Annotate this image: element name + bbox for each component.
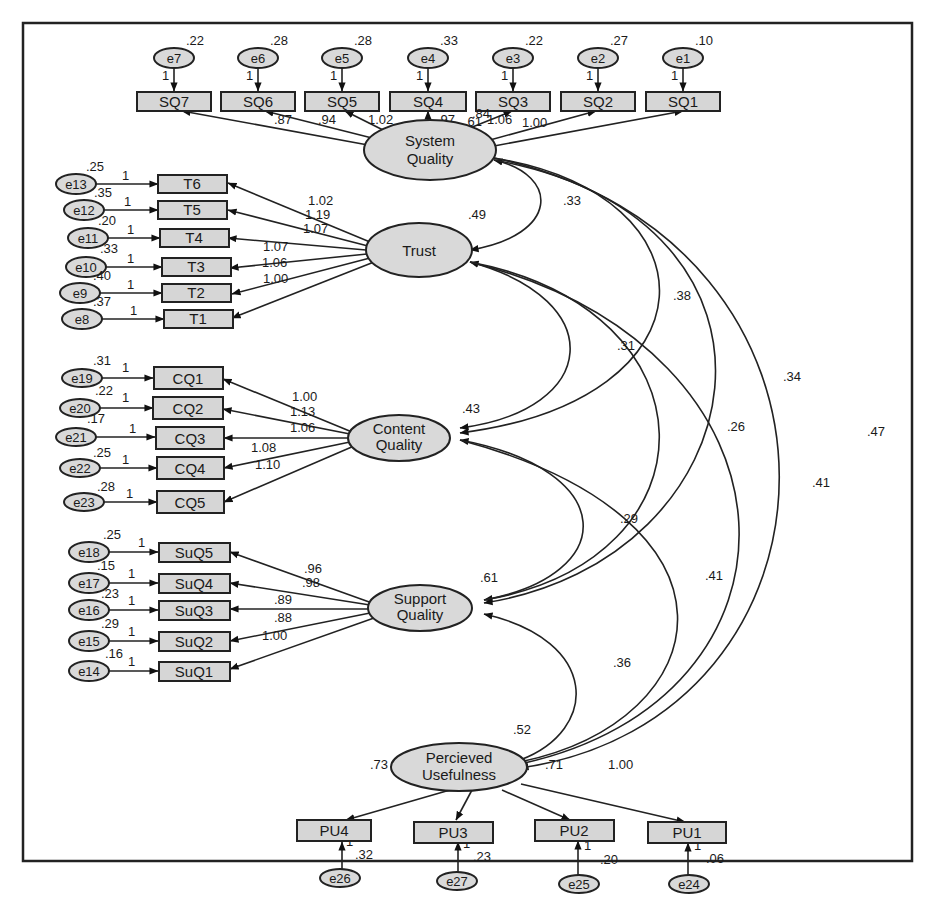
fixed-e9: 1 xyxy=(127,277,134,292)
latent-label-support-quality-line2: Quality xyxy=(397,606,444,623)
loading-label-pu1: 1.00 xyxy=(608,757,633,772)
error-var-e26: .32 xyxy=(355,847,373,862)
error-label-e14: e14 xyxy=(78,664,100,679)
indicator-label-sq3: SQ3 xyxy=(498,93,528,110)
indicator-label-cq1: CQ1 xyxy=(173,370,204,387)
error-var-e18: .25 xyxy=(103,527,121,542)
fixed-e13: 1 xyxy=(122,168,129,183)
latent-label-system-quality-line2: Quality xyxy=(407,150,454,167)
error-label-e2: e2 xyxy=(591,51,605,66)
error-var-e27: .23 xyxy=(473,849,491,864)
loading-label-sq2: 1.06 xyxy=(487,112,512,127)
loading-label-suq4: .98 xyxy=(302,575,320,590)
fixed-e22: 1 xyxy=(122,452,129,467)
indicator-label-pu4: PU4 xyxy=(319,822,348,839)
error-var-e20: .22 xyxy=(95,383,113,398)
loading-pu2 xyxy=(502,790,570,820)
indicator-label-sq7: SQ7 xyxy=(159,93,189,110)
error-var-e17: .15 xyxy=(97,558,115,573)
loading-label-t3: 1.07 xyxy=(263,239,288,254)
loading-t6 xyxy=(228,183,370,242)
fixed-e12: 1 xyxy=(124,194,131,209)
loading-suq5 xyxy=(230,552,372,603)
indicator-label-t6: T6 xyxy=(183,175,201,192)
loading-t3 xyxy=(230,254,367,268)
cov-trust-pu xyxy=(470,262,739,764)
error-label-e23: e23 xyxy=(73,495,95,510)
error-var-e3: .22 xyxy=(525,33,543,48)
indicator-label-suq5: SuQ5 xyxy=(175,544,213,561)
loading-label-sq1: 1.00 xyxy=(522,115,547,130)
loading-label-cq4: 1.08 xyxy=(251,440,276,455)
indicator-label-sq4: SQ4 xyxy=(413,93,443,110)
cov-label-sq-cq: .38 xyxy=(673,288,691,303)
loading-label-t2: 1.06 xyxy=(262,255,287,270)
error-var-e12: .35 xyxy=(94,185,112,200)
fixed-e17: 1 xyxy=(128,566,135,581)
cov-trust-suq xyxy=(470,262,659,600)
indicator-label-sq1: SQ1 xyxy=(668,93,698,110)
loading-suq1 xyxy=(230,618,374,669)
content-quality-indicators: e19 e20 e21 e22 e23 .31 .22 .17 .25 .28 … xyxy=(56,353,354,513)
cov-sq-cq xyxy=(460,158,659,433)
error-var-e6: .28 xyxy=(270,33,288,48)
error-label-e25: e25 xyxy=(568,877,590,892)
latent-variance-content-quality: .43 xyxy=(462,401,480,416)
error-label-e27: e27 xyxy=(446,874,468,889)
error-label-e21: e21 xyxy=(65,430,87,445)
covariance-paths xyxy=(460,158,779,768)
error-var-e13: .25 xyxy=(86,159,104,174)
fixed-e15: 1 xyxy=(128,624,135,639)
loading-t1 xyxy=(232,262,374,318)
loading-label-pu2: .71 xyxy=(545,757,563,772)
error-var-e2: .27 xyxy=(610,33,628,48)
error-label-e24: e24 xyxy=(678,877,700,892)
error-label-e9: e9 xyxy=(73,286,87,301)
error-var-e24: .06 xyxy=(706,851,724,866)
indicator-label-sq2: SQ2 xyxy=(583,93,613,110)
loading-label-pu4: .73 xyxy=(370,757,388,772)
loading-label-sq6: .87 xyxy=(274,112,292,127)
latent-variance-support-quality: .61 xyxy=(480,570,498,585)
fixed-e6: 1 xyxy=(246,68,253,83)
indicator-label-t3: T3 xyxy=(187,258,205,275)
error-label-e17: e17 xyxy=(78,576,100,591)
indicator-label-t1: T1 xyxy=(189,310,207,327)
error-label-e4: e4 xyxy=(421,51,435,66)
indicator-label-cq4: CQ4 xyxy=(175,460,206,477)
latent-label-content-quality-line2: Quality xyxy=(376,436,423,453)
support-quality-indicators: e18 e17 e16 e15 e14 .25 .15 .23 .29 .16 … xyxy=(69,527,374,681)
error-label-e19: e19 xyxy=(71,371,93,386)
loading-label-suq1: 1.00 xyxy=(262,628,287,643)
fixed-e21: 1 xyxy=(129,421,136,436)
loading-cq2 xyxy=(223,409,350,434)
error-label-e26: e26 xyxy=(329,871,351,886)
error-label-e22: e22 xyxy=(69,461,91,476)
loading-label-cq1: 1.00 xyxy=(292,389,317,404)
loading-label-suq2: .88 xyxy=(274,610,292,625)
sem-path-diagram: .33 .38 .31 .34 .26 .47 .41 .29 .41 .36 … xyxy=(0,0,931,902)
loading-label-cq3: 1.06 xyxy=(290,420,315,435)
error-label-e8: e8 xyxy=(75,312,89,327)
loading-label-sq5: .94 xyxy=(318,112,336,127)
fixed-e4: 1 xyxy=(416,68,423,83)
loading-label-cq5: 1.10 xyxy=(255,457,280,472)
error-var-e8: .37 xyxy=(93,294,111,309)
trust-indicators: e13 e12 e11 e10 e9 e8 .25 .35 .20 .33 .4… xyxy=(56,159,374,329)
fixed-e7: 1 xyxy=(162,68,169,83)
fixed-e1: 1 xyxy=(671,68,678,83)
indicator-label-cq2: CQ2 xyxy=(173,400,204,417)
cov-label-cq-pu: .41 xyxy=(705,568,723,583)
error-label-e7: e7 xyxy=(167,51,181,66)
error-var-e7: .22 xyxy=(186,33,204,48)
error-var-e4: .33 xyxy=(440,33,458,48)
error-label-e11: e11 xyxy=(78,231,99,246)
latent-label-perceived-usefulness-line1: Percieved xyxy=(426,749,493,766)
error-var-e16: .23 xyxy=(101,586,119,601)
indicator-label-sq6: SQ6 xyxy=(243,93,273,110)
indicator-label-suq1: SuQ1 xyxy=(175,663,213,680)
error-var-e9: .40 xyxy=(93,268,111,283)
loading-label-suq3: .89 xyxy=(274,592,292,607)
error-label-e12: e12 xyxy=(73,203,95,218)
fixed-e3: 1 xyxy=(501,68,508,83)
